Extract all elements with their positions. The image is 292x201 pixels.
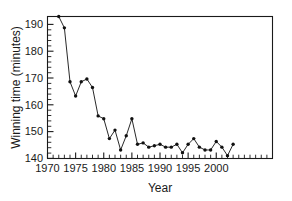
- data-point: [158, 143, 161, 146]
- y-tick-label-150: 150: [25, 125, 43, 137]
- x-axis-ticks: [48, 153, 273, 159]
- x-tick-label-1995: 1995: [176, 162, 200, 174]
- x-tick-label-1970: 1970: [35, 162, 59, 174]
- data-point: [170, 145, 173, 148]
- y-tick-label-160: 160: [25, 99, 43, 111]
- data-point: [63, 26, 66, 29]
- data-point: [175, 143, 178, 146]
- data-point: [220, 145, 223, 148]
- data-point: [125, 134, 128, 137]
- data-point: [130, 117, 133, 120]
- data-point: [203, 148, 206, 151]
- data-point: [192, 137, 195, 140]
- plot-frame: [48, 17, 273, 159]
- data-point: [119, 148, 122, 151]
- y-tick-label-180: 180: [25, 45, 43, 57]
- y-tick-label-170: 170: [25, 72, 43, 84]
- data-series-points: [57, 15, 235, 158]
- data-point: [113, 128, 116, 131]
- y-axis-ticks: [48, 24, 54, 158]
- data-point: [147, 145, 150, 148]
- data-point: [198, 145, 201, 148]
- data-point: [74, 94, 77, 97]
- data-point: [80, 80, 83, 83]
- data-series-line: [59, 17, 233, 156]
- data-point: [209, 148, 212, 151]
- x-tick-label-2000: 2000: [204, 162, 228, 174]
- data-point: [68, 80, 71, 83]
- data-point: [85, 77, 88, 80]
- data-point: [181, 151, 184, 154]
- data-point: [231, 143, 234, 146]
- x-tick-label-1975: 1975: [63, 162, 87, 174]
- data-point: [186, 143, 189, 146]
- data-point: [226, 154, 229, 157]
- x-tick-label-1980: 1980: [92, 162, 116, 174]
- data-point: [96, 114, 99, 117]
- data-point: [164, 145, 167, 148]
- data-point: [57, 15, 60, 18]
- x-tick-label-1990: 1990: [148, 162, 172, 174]
- data-point: [108, 137, 111, 140]
- data-point: [91, 86, 94, 89]
- x-tick-label-1985: 1985: [120, 162, 144, 174]
- y-axis-title: Winning time (minutes): [9, 26, 23, 149]
- data-point: [136, 143, 139, 146]
- chart-figure: 190 180 170 160 150 140 1970 1975 1980 1…: [0, 0, 292, 201]
- data-point: [215, 140, 218, 143]
- x-axis-title: Year: [148, 181, 172, 195]
- y-tick-label-190: 190: [25, 18, 43, 30]
- data-point: [141, 141, 144, 144]
- line-chart: 190 180 170 160 150 140 1970 1975 1980 1…: [0, 0, 292, 201]
- data-point: [153, 144, 156, 147]
- data-point: [102, 117, 105, 120]
